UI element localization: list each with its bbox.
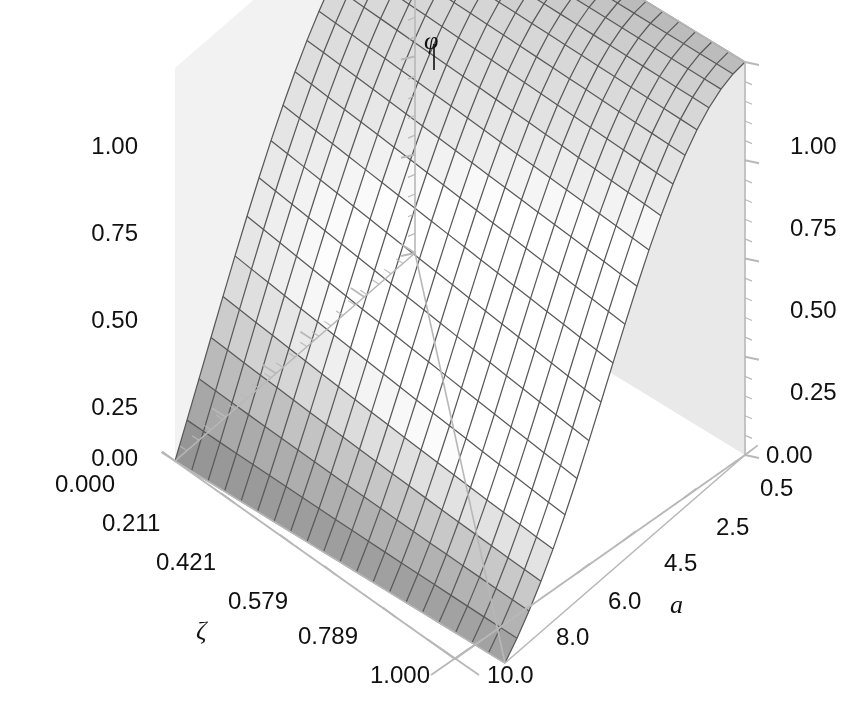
z-tick-left-1: 1.00 — [28, 134, 138, 158]
zeta-tick-5: 0.789 — [298, 624, 358, 648]
z-tick-left-3: 0.50 — [28, 308, 138, 332]
a-tick-5: 8.0 — [556, 625, 589, 649]
a-tick-6: 10.0 — [487, 663, 534, 687]
z-tick-right-4: 0.25 — [790, 380, 837, 404]
z-tick-right-2: 0.75 — [790, 216, 837, 240]
z-tick-right-5: 0.00 — [766, 443, 813, 467]
z-tick-left-4: 0.25 — [28, 395, 138, 419]
axis-label-a: a — [670, 592, 683, 618]
zeta-tick-4: 0.579 — [228, 589, 288, 613]
z-tick-left-5: 0.00 — [28, 446, 138, 470]
zeta-tick-2: 0.211 — [102, 511, 160, 535]
z-tick-right-1: 1.00 — [790, 134, 837, 158]
zeta-tick-6: 1.000 — [370, 663, 430, 687]
a-tick-4: 6.0 — [608, 589, 641, 613]
z-tick-left-2: 0.75 — [28, 221, 138, 245]
surface-plot-canvas — [0, 0, 868, 727]
surface-plot-figure: φ 1.00 0.75 0.50 0.25 0.00 1.00 0.75 0.5… — [0, 0, 868, 727]
zeta-tick-3: 0.421 — [156, 550, 216, 574]
a-tick-1: 0.5 — [760, 476, 793, 500]
zeta-tick-1: 0.000 — [55, 472, 115, 496]
axis-label-phi: φ — [424, 28, 438, 54]
a-tick-2: 2.5 — [716, 515, 749, 539]
z-tick-right-3: 0.50 — [790, 298, 837, 322]
a-tick-3: 4.5 — [664, 551, 697, 575]
axis-label-zeta: ζ — [196, 618, 207, 644]
